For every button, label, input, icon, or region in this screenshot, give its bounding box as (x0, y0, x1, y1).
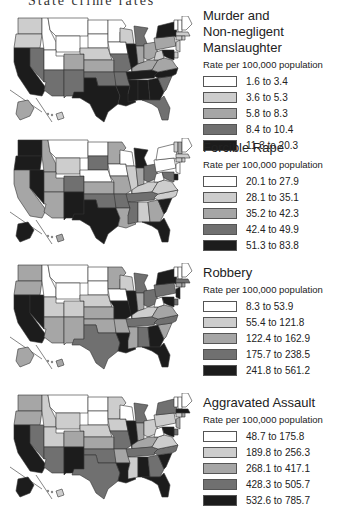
state-ks (84, 182, 114, 194)
legend-label: 3.6 to 5.3 (246, 92, 288, 103)
state-me (182, 16, 192, 30)
state-mi (134, 403, 148, 423)
legend-item: 28.1 to 35.1 (203, 189, 356, 205)
state-or (14, 281, 42, 295)
inset-divider (36, 475, 52, 499)
legend-label: 51.3 to 83.8 (246, 240, 299, 251)
legend-label: 48.7 to 175.8 (246, 431, 304, 442)
state-az (44, 70, 64, 96)
legend-label: 122.4 to 162.9 (246, 333, 310, 344)
legend-label: 42.4 to 49.9 (246, 224, 299, 235)
legend-item: 189.8 to 256.3 (203, 444, 356, 460)
state-ia (108, 164, 128, 176)
hawaii-island (47, 113, 49, 115)
state-de (174, 174, 178, 180)
state-ma (176, 154, 190, 158)
state-wy (56, 283, 80, 299)
state-sd (88, 34, 108, 48)
legend-item: 122.4 to 162.9 (203, 330, 356, 346)
legend-swatch (203, 208, 237, 219)
legend-swatch (203, 349, 237, 360)
legend-swatch (203, 431, 237, 442)
legend-label: 5.8 to 8.3 (246, 108, 288, 119)
legend-swatch (203, 463, 237, 474)
legend-subtitle: Rate per 100,000 population (203, 59, 356, 70)
panel-murder: Murder and Non-negligent Manslaughter Ra… (0, 8, 356, 128)
state-ia (108, 289, 128, 301)
legend-item: 268.1 to 417.1 (203, 460, 356, 476)
legend-swatch (203, 92, 237, 103)
hawaii-island (51, 491, 53, 493)
state-sd (88, 281, 108, 295)
hawaii-island (47, 490, 49, 492)
state-hi (56, 112, 64, 120)
state-hi (56, 234, 64, 242)
state-ms (128, 327, 138, 349)
state-vt (174, 267, 178, 277)
legend-item: 241.8 to 561.2 (203, 362, 356, 378)
state-or (14, 34, 42, 48)
state-wy (56, 36, 80, 52)
legend-label: 189.8 to 256.3 (246, 447, 310, 458)
state-wa (18, 395, 42, 411)
hawaii-island (51, 114, 53, 116)
state-nj (176, 287, 180, 299)
state-ma (176, 32, 190, 36)
state-ct (176, 36, 182, 40)
state-sd (88, 411, 108, 425)
state-tn (126, 70, 158, 80)
legend-label: 241.8 to 561.2 (246, 365, 310, 376)
legend-item: 5.8 to 8.3 (203, 105, 356, 121)
legend-label: 55.4 to 121.8 (246, 317, 304, 328)
state-ma (176, 279, 190, 283)
us-choropleth-map (8, 138, 198, 248)
legend: Robbery Rate per 100,000 population 8.3 … (203, 265, 356, 378)
state-ut (44, 50, 64, 70)
legend-swatch (203, 479, 237, 490)
state-nd (88, 267, 108, 281)
legend-swatch (203, 301, 237, 312)
state-wi (120, 405, 134, 421)
state-nj (176, 417, 180, 429)
state-co (64, 301, 84, 317)
state-nh (178, 142, 182, 154)
state-ks (84, 60, 114, 72)
legend-item: 428.3 to 505.7 (203, 476, 356, 492)
state-wi (120, 150, 134, 166)
state-tn (126, 192, 158, 202)
state-ut (44, 297, 64, 317)
inset-divider (36, 345, 52, 369)
state-me (182, 138, 192, 152)
state-mi (134, 148, 148, 168)
state-wa (18, 18, 42, 34)
state-ma (176, 409, 190, 413)
us-choropleth-map (8, 16, 198, 126)
state-ak (16, 100, 34, 120)
state-or (14, 156, 42, 170)
legend-title: Robbery (203, 265, 356, 281)
legend-swatch (203, 240, 237, 251)
state-mt (48, 265, 88, 283)
panel-forcible-rape: Forcible Rape Rate per 100,000 populatio… (0, 130, 356, 252)
legend-item: 1.6 to 3.4 (203, 73, 356, 89)
state-ri (182, 36, 185, 40)
legend-swatch (203, 495, 237, 506)
state-sd (88, 156, 108, 170)
state-hi (56, 359, 64, 367)
legend-swatch (203, 108, 237, 119)
state-ne (80, 295, 112, 307)
state-or (14, 411, 42, 425)
legend-swatch (203, 365, 237, 376)
state-az (44, 317, 64, 343)
legend: Aggravated Assault Rate per 100,000 popu… (203, 395, 356, 506)
legend-label: 1.6 to 3.4 (246, 76, 288, 87)
legend-label: 175.7 to 238.5 (246, 349, 310, 360)
state-ct (176, 158, 182, 162)
state-nh (178, 397, 182, 409)
state-hi (56, 489, 64, 497)
legend-subtitle: Rate per 100,000 population (203, 159, 356, 170)
state-ri (182, 158, 185, 162)
legend-item: 3.6 to 5.3 (203, 89, 356, 105)
hawaii-island (47, 360, 49, 362)
state-nh (178, 267, 182, 279)
